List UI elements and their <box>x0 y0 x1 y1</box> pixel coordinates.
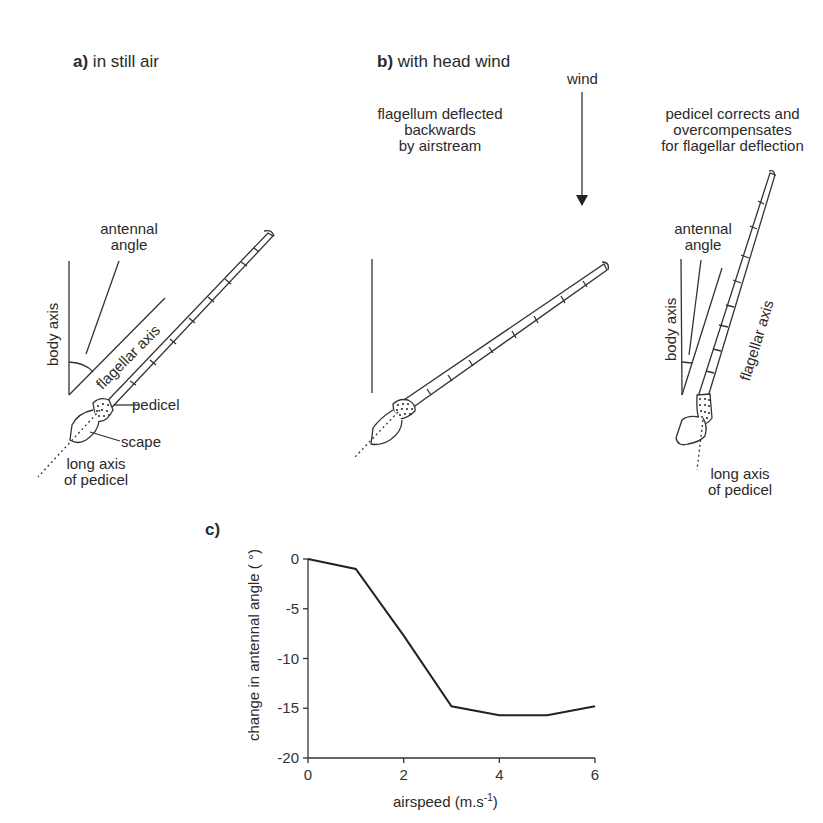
svg-text:6: 6 <box>591 766 599 783</box>
x-axis-label-end: ) <box>493 793 498 810</box>
svg-text:-5: -5 <box>286 600 299 617</box>
svg-text:-20: -20 <box>277 749 299 766</box>
data-line <box>308 559 595 715</box>
x-tick-labels: 0246 <box>304 766 599 783</box>
x-axis-label-base: airspeed (m.s <box>393 793 484 810</box>
x-axis-label-sup: -1 <box>484 792 493 803</box>
line-chart: 0-5-10-15-20 0246 <box>0 0 823 823</box>
svg-text:2: 2 <box>399 766 407 783</box>
y-ticks <box>303 559 308 758</box>
svg-text:0: 0 <box>291 550 299 567</box>
y-axis-label: change in antennal angle ( °) <box>246 549 262 741</box>
svg-text:-10: -10 <box>277 650 299 667</box>
x-ticks <box>308 758 595 763</box>
svg-text:0: 0 <box>304 766 312 783</box>
x-axis-label: airspeed (m.s-1) <box>393 790 498 810</box>
y-tick-labels: 0-5-10-15-20 <box>277 550 299 766</box>
svg-text:-15: -15 <box>277 699 299 716</box>
svg-text:4: 4 <box>495 766 503 783</box>
